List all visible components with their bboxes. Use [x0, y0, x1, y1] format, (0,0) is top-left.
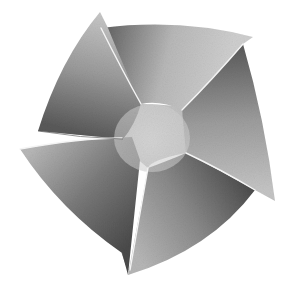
pinwheel-canvas: Pinwheel graphic: [0, 0, 297, 295]
pinwheel-graphic: [0, 0, 297, 295]
center-highlight: [114, 104, 190, 172]
